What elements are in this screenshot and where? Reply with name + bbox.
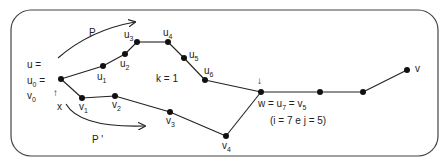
edge-v3-v4 xyxy=(170,112,226,136)
label-v4: v4 xyxy=(222,140,231,153)
start-label-line2: u0 = xyxy=(27,75,45,88)
label-u4: u4 xyxy=(163,27,173,40)
edge-v4-w xyxy=(226,92,261,136)
label-u1: u1 xyxy=(97,71,107,84)
nodes xyxy=(58,39,410,139)
up-arrow-icon: ↑ xyxy=(53,87,58,98)
label-v: v xyxy=(415,63,420,74)
label-u6: u6 xyxy=(204,65,214,78)
node-n9 xyxy=(360,89,366,95)
label-x: x xyxy=(57,101,62,112)
edge-n9-v xyxy=(363,70,407,92)
node-u5 xyxy=(181,55,187,61)
node-v4 xyxy=(223,133,229,139)
path-p-prime-arrow-icon xyxy=(66,104,145,126)
down-arrow-icon: ↓ xyxy=(257,75,262,86)
node-u2 xyxy=(122,51,128,57)
edge-u0-v1 xyxy=(61,79,82,98)
start-label-line1: u = xyxy=(27,59,41,70)
node-n8 xyxy=(317,89,323,95)
label-u3: u3 xyxy=(124,29,134,42)
start-label-line3: v0 xyxy=(27,90,36,103)
label-u5: u5 xyxy=(189,49,199,62)
node-u1 xyxy=(100,63,106,69)
label-path-p-prime: P ' xyxy=(92,134,103,145)
edges xyxy=(61,42,407,136)
label-k: k = 1 xyxy=(156,73,178,84)
edge-u6-w xyxy=(205,80,261,92)
label-indices: (i = 7 e j = 5) xyxy=(270,115,326,126)
label-v3: v3 xyxy=(166,115,175,128)
node-u3 xyxy=(134,39,140,45)
label-path-p: P xyxy=(89,27,96,38)
edge-v1-v2 xyxy=(82,96,115,98)
node-u6 xyxy=(202,77,208,83)
label-v1: v1 xyxy=(79,101,88,114)
label-w: w = u7 = v5 xyxy=(257,98,307,111)
edge-v2-v3 xyxy=(115,96,170,112)
node-u0 xyxy=(58,76,64,82)
label-v2: v2 xyxy=(112,99,121,112)
node-w xyxy=(258,89,264,95)
edge-u4-u5 xyxy=(168,42,184,58)
path-diagram: u1 u2 u3 u4 u5 u6 v1 v2 v3 v4 v u = u0 =… xyxy=(0,0,447,168)
node-v xyxy=(404,67,410,73)
label-u2: u2 xyxy=(120,58,130,71)
